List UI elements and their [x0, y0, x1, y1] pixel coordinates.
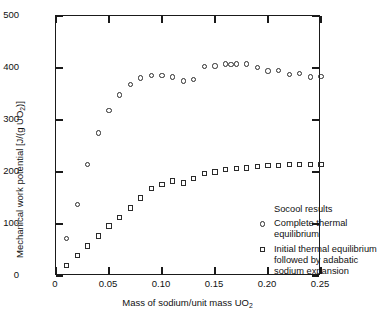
data-point-circle — [234, 61, 239, 66]
y-axis-title-after: )] — [14, 101, 25, 107]
data-point-square — [106, 223, 111, 228]
y-tick-label: 200 — [0, 166, 19, 176]
x-axis-tick — [55, 267, 56, 274]
data-point-circle — [138, 75, 143, 80]
data-point-square — [138, 195, 143, 200]
x-tick-label: 0.15 — [191, 279, 237, 289]
data-point-circle — [106, 108, 111, 113]
data-point-circle — [159, 73, 164, 78]
y-axis-title-sub: 2 — [19, 107, 26, 111]
data-point-circle — [297, 71, 302, 76]
y-tick-label: 300 — [0, 114, 19, 124]
y-tick-label: 0 — [0, 270, 19, 280]
plot-area: Socool results Complete thermal equilibr… — [55, 15, 320, 275]
y-axis-tick — [312, 15, 319, 16]
data-point-circle — [212, 63, 217, 68]
y-axis-tick — [56, 67, 63, 68]
data-point-circle — [255, 65, 260, 70]
legend-entry-initial-thermal-equilibrium: Initial thermal equilibrium followed by … — [252, 244, 380, 278]
legend-title: Socool results — [274, 204, 380, 215]
y-axis-tick — [56, 223, 63, 224]
data-point-circle — [85, 162, 90, 167]
x-tick-label: 0.20 — [244, 279, 290, 289]
y-tick-label: 100 — [0, 218, 19, 228]
data-point-square — [234, 166, 239, 171]
data-point-square — [181, 180, 186, 185]
data-point-square — [117, 215, 122, 220]
data-point-circle — [276, 68, 281, 73]
y-axis-tick — [56, 275, 63, 276]
data-point-circle — [202, 64, 207, 69]
data-point-square — [308, 162, 313, 167]
data-point-square — [191, 176, 196, 181]
x-tick-label: 0.10 — [138, 279, 184, 289]
x-axis-title-before: Mass of sodium/unit mass UO — [122, 297, 249, 308]
data-point-circle — [308, 74, 313, 79]
y-axis-tick — [312, 67, 319, 68]
data-point-circle — [181, 78, 186, 83]
open-square-marker-icon — [260, 247, 265, 252]
data-point-square — [212, 169, 217, 174]
data-point-circle — [75, 202, 80, 207]
data-point-circle — [128, 82, 133, 87]
y-axis-tick — [312, 171, 319, 172]
data-point-square — [255, 164, 260, 169]
y-tick-label: 400 — [0, 62, 19, 72]
data-point-square — [223, 167, 228, 172]
data-point-circle — [265, 68, 270, 73]
data-point-circle — [191, 77, 196, 82]
data-point-square — [318, 162, 323, 167]
x-axis-tick — [55, 16, 56, 23]
data-point-square — [96, 233, 101, 238]
x-axis-tick — [214, 16, 215, 23]
data-point-square — [159, 182, 164, 187]
data-point-square — [244, 165, 249, 170]
data-point-circle — [228, 62, 233, 67]
data-point-square — [170, 178, 175, 183]
legend-entry-complete-thermal-equilibrium: Complete thermal equilibrium — [252, 218, 380, 240]
data-point-square — [128, 205, 133, 210]
x-axis-tick — [161, 267, 162, 274]
data-point-square — [202, 171, 207, 176]
x-axis-tick — [214, 267, 215, 274]
y-axis-tick — [56, 119, 63, 120]
x-tick-label: 0.05 — [85, 279, 131, 289]
data-point-square — [149, 186, 154, 191]
data-point-circle — [149, 73, 154, 78]
y-tick-label: 500 — [0, 10, 19, 20]
x-axis-tick — [320, 16, 321, 23]
x-axis-title: Mass of sodium/unit mass UO2 — [55, 297, 320, 309]
data-point-circle — [117, 92, 122, 97]
x-axis-tick — [267, 16, 268, 23]
y-axis-tick — [56, 15, 63, 16]
data-point-square — [276, 163, 281, 168]
data-point-square — [297, 162, 302, 167]
data-point-circle — [287, 72, 292, 77]
y-axis-title: Mechanical work potential [J/(g UO2)] — [14, 101, 26, 258]
y-axis-tick — [56, 171, 63, 172]
data-point-circle — [318, 74, 323, 79]
data-point-square — [64, 263, 69, 268]
data-point-circle — [96, 130, 101, 135]
y-axis-tick — [312, 119, 319, 120]
x-axis-tick — [161, 16, 162, 23]
x-axis-tick — [108, 267, 109, 274]
x-tick-label: 0.25 — [297, 279, 343, 289]
x-tick-label: 0 — [32, 279, 78, 289]
open-circle-marker-icon — [260, 221, 265, 226]
data-point-square — [287, 162, 292, 167]
legend: Socool results Complete thermal equilibr… — [252, 204, 380, 277]
data-point-square — [85, 243, 90, 248]
legend-entry-label: Complete thermal equilibrium — [274, 218, 347, 239]
data-point-circle — [64, 236, 69, 241]
data-point-square — [75, 253, 80, 258]
data-point-square — [265, 163, 270, 168]
y-axis-title-before: Mechanical work potential [J/(g UO — [14, 111, 25, 258]
legend-entry-label: Initial thermal equilibrium followed by … — [274, 244, 377, 276]
x-axis-title-sub: 2 — [249, 302, 253, 309]
data-point-circle — [170, 74, 175, 79]
x-axis-tick — [108, 16, 109, 23]
data-point-circle — [244, 61, 249, 66]
